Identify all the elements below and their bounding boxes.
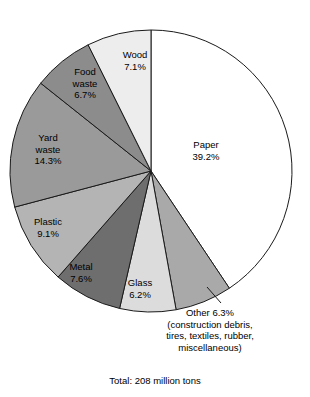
other-note-line-3: miscellaneous) [55,342,310,354]
slice-name-wood: Wood [0,49,290,61]
total-caption: Total: 208 million tons [0,375,310,386]
slice-percent-other: 6.3% [212,307,234,318]
slice-label-plastic: Plastic 9.1% [0,216,203,239]
slice-name-metal: Metal [0,261,236,273]
slice-name-food-waste-line2: waste [0,78,240,90]
slice-label-metal: Metal 7.6% [0,261,236,284]
other-note-line-2: tires, textiles, rubber, [55,330,310,342]
slice-label-wood: Wood 7.1% [0,49,290,72]
slice-label-other: Other 6.3% (construction debris, tires, … [55,307,310,353]
slice-name-yard-waste-line2: waste [0,144,203,156]
pie-chart: Paper 39.2% Glass 6.2% Metal 7.6% Plasti… [0,0,310,397]
slice-name-plastic: Plastic [0,216,203,228]
slice-name-yard-waste-line1: Yard [0,132,203,144]
slice-name-other: Other [186,307,210,318]
slice-percent-wood: 7.1% [0,61,290,73]
slice-percent-metal: 7.6% [0,273,236,285]
slice-percent-plastic: 9.1% [0,228,203,240]
other-note-line-1: (construction debris, [55,319,310,331]
slice-percent-glass: 6.2% [0,289,295,301]
slice-label-yard-waste: Yard waste 14.3% [0,132,203,167]
slice-percent-yard-waste: 14.3% [0,155,203,167]
slice-percent-food-waste: 6.7% [0,89,240,101]
